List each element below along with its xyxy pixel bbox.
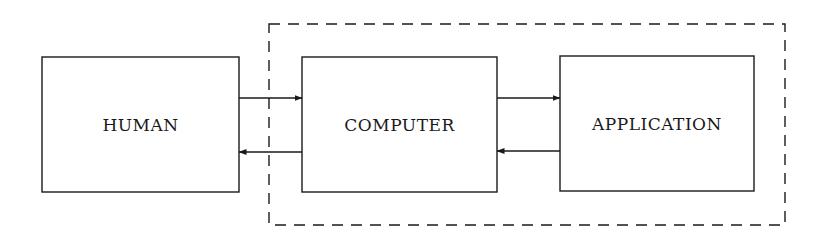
application-label: APPLICATION [591, 114, 722, 134]
computer-label: COMPUTER [344, 115, 455, 135]
node-human: HUMAN [42, 57, 239, 192]
node-application: APPLICATION [560, 56, 754, 191]
diagram-canvas: HUMAN COMPUTER APPLICATION [0, 0, 829, 239]
human-label: HUMAN [102, 115, 178, 135]
node-computer: COMPUTER [302, 57, 497, 192]
